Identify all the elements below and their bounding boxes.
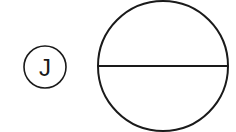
label-text: J: [39, 54, 51, 81]
bisected-circle-symbol: [98, 1, 228, 131]
diagram-canvas: J: [0, 0, 236, 132]
label-marker: J: [24, 46, 66, 88]
